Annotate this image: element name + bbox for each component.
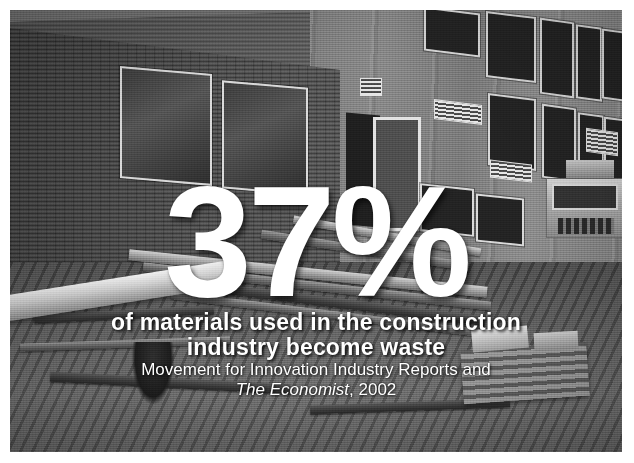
louver-vent	[360, 78, 382, 96]
headline-statistic: 37%	[10, 162, 622, 320]
background-photo: 37% of materials used in the constructio…	[10, 10, 622, 452]
source-year: , 2002	[349, 380, 396, 399]
source-line-1: Movement for Innovation Industry Reports…	[10, 360, 622, 380]
window	[602, 28, 622, 101]
slide-canvas: 37% of materials used in the constructio…	[0, 0, 634, 463]
caption-line-2: industry become waste	[10, 335, 622, 360]
window	[540, 18, 574, 99]
caption-block: of materials used in the construction in…	[10, 310, 622, 400]
window	[486, 11, 536, 83]
source-line-2: The Economist, 2002	[10, 380, 622, 400]
window	[576, 24, 602, 102]
caption-line-1: of materials used in the construction	[10, 310, 622, 335]
window	[424, 10, 480, 57]
source-publication: The Economist	[236, 380, 349, 399]
louver-vent	[586, 128, 618, 156]
